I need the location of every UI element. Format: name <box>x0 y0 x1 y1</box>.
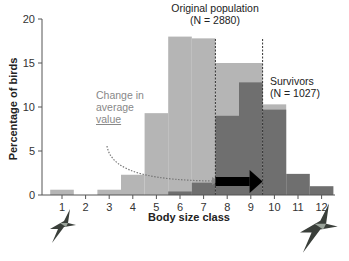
x-tick-label: 10 <box>268 201 280 213</box>
x-tick-label: 3 <box>106 201 112 213</box>
y-tick-label: 5 <box>29 145 35 157</box>
y-axis-title: Percentage of birds <box>7 54 19 164</box>
x-tick-label: 4 <box>130 201 136 213</box>
y-tick-label: 0 <box>29 189 35 201</box>
survivors-title: Survivors <box>270 75 320 87</box>
x-axis-title: Body size class <box>148 211 230 223</box>
survivors-label: Survivors (N = 1027) <box>270 75 320 99</box>
original-bar <box>121 175 145 195</box>
small-bird-icon <box>50 209 76 243</box>
x-tick-label: 2 <box>83 201 89 213</box>
survivor-bar <box>263 110 287 195</box>
x-tick-label: 11 <box>292 201 303 213</box>
original-population-title: Original population <box>150 2 280 14</box>
survivor-bar <box>310 186 334 195</box>
chart-figure: 05101520123456789101112 Original populat… <box>0 0 349 261</box>
x-tick-label: 1 <box>59 201 65 213</box>
survivor-bar <box>168 191 192 195</box>
original-bar <box>192 38 216 195</box>
y-tick-label: 10 <box>23 101 35 113</box>
original-bar <box>97 190 121 195</box>
survivor-bar <box>192 183 216 195</box>
survivor-bar <box>286 174 310 195</box>
change-line-1: Change in <box>96 89 144 101</box>
y-tick-label: 20 <box>23 13 35 25</box>
change-line-3: value <box>96 113 144 125</box>
shift-arrow-shaft <box>215 177 249 186</box>
original-bar <box>145 113 169 195</box>
original-population-label: Original population (N = 2880) <box>150 2 280 26</box>
survivors-n: (N = 1027) <box>270 87 320 99</box>
original-bar <box>50 190 74 195</box>
x-tick-label: 9 <box>248 201 254 213</box>
change-annotation: Change in average value <box>96 89 144 125</box>
original-population-n: (N = 2880) <box>150 14 280 26</box>
change-line-2: average <box>96 101 144 113</box>
y-tick-label: 15 <box>23 57 35 69</box>
original-bar <box>168 37 192 195</box>
